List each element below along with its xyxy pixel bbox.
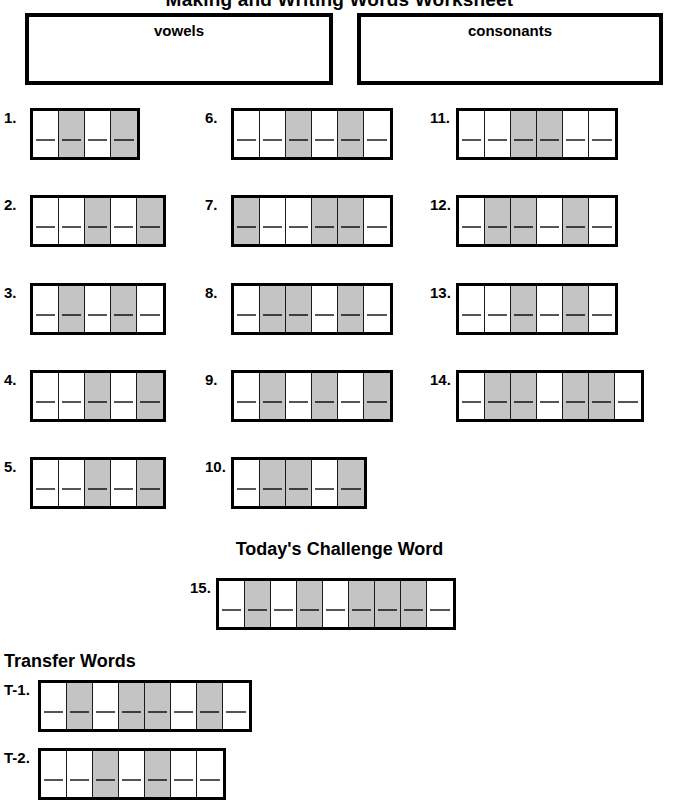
letter-cell-shaded[interactable]: [260, 460, 286, 506]
word-box[interactable]: [456, 195, 618, 247]
letter-cell[interactable]: [85, 286, 111, 332]
word-box[interactable]: [30, 195, 166, 247]
letter-cell-shaded[interactable]: [260, 373, 286, 419]
letter-cell-shaded[interactable]: [589, 373, 615, 419]
letter-cell-shaded[interactable]: [401, 581, 427, 627]
word-box[interactable]: [231, 195, 393, 247]
letter-cell-shaded[interactable]: [286, 286, 312, 332]
letter-cell[interactable]: [563, 111, 589, 157]
letter-cell[interactable]: [33, 111, 59, 157]
letter-cell[interactable]: [589, 111, 615, 157]
letter-cell[interactable]: [197, 751, 223, 797]
letter-cell-shaded[interactable]: [338, 460, 364, 506]
letter-cell[interactable]: [85, 111, 111, 157]
sort-box-consonants[interactable]: consonants: [357, 13, 663, 85]
letter-cell[interactable]: [111, 373, 137, 419]
letter-cell[interactable]: [485, 286, 511, 332]
letter-cell[interactable]: [137, 286, 163, 332]
letter-cell[interactable]: [41, 751, 67, 797]
letter-cell[interactable]: [459, 373, 485, 419]
word-box[interactable]: [30, 370, 166, 422]
letter-cell[interactable]: [59, 460, 85, 506]
letter-cell-shaded[interactable]: [511, 111, 537, 157]
sort-box-vowels[interactable]: vowels: [25, 13, 333, 85]
word-box[interactable]: [231, 370, 393, 422]
letter-cell[interactable]: [537, 286, 563, 332]
letter-cell-shaded[interactable]: [59, 286, 85, 332]
letter-cell[interactable]: [364, 111, 390, 157]
word-box[interactable]: [30, 108, 140, 160]
letter-cell-shaded[interactable]: [137, 373, 163, 419]
letter-cell[interactable]: [260, 198, 286, 244]
letter-cell-shaded[interactable]: [286, 460, 312, 506]
letter-cell[interactable]: [33, 373, 59, 419]
letter-cell-shaded[interactable]: [364, 373, 390, 419]
letter-cell-shaded[interactable]: [137, 198, 163, 244]
letter-cell-shaded[interactable]: [563, 373, 589, 419]
letter-cell-shaded[interactable]: [312, 198, 338, 244]
letter-cell-shaded[interactable]: [260, 286, 286, 332]
letter-cell[interactable]: [427, 581, 453, 627]
letter-cell-shaded[interactable]: [286, 111, 312, 157]
letter-cell[interactable]: [93, 683, 119, 729]
letter-cell-shaded[interactable]: [85, 198, 111, 244]
letter-cell[interactable]: [312, 286, 338, 332]
letter-cell[interactable]: [459, 198, 485, 244]
letter-cell[interactable]: [171, 683, 197, 729]
letter-cell[interactable]: [338, 373, 364, 419]
letter-cell[interactable]: [485, 111, 511, 157]
letter-cell-shaded[interactable]: [349, 581, 375, 627]
letter-cell[interactable]: [537, 373, 563, 419]
letter-cell[interactable]: [364, 198, 390, 244]
letter-cell[interactable]: [219, 581, 245, 627]
letter-cell-shaded[interactable]: [563, 198, 589, 244]
letter-cell[interactable]: [59, 373, 85, 419]
letter-cell-shaded[interactable]: [375, 581, 401, 627]
letter-cell[interactable]: [234, 460, 260, 506]
letter-cell-shaded[interactable]: [111, 286, 137, 332]
letter-cell[interactable]: [223, 683, 249, 729]
letter-cell-shaded[interactable]: [563, 286, 589, 332]
letter-cell[interactable]: [33, 198, 59, 244]
letter-cell[interactable]: [234, 111, 260, 157]
letter-cell[interactable]: [589, 286, 615, 332]
letter-cell-shaded[interactable]: [312, 373, 338, 419]
word-box[interactable]: [231, 457, 367, 509]
letter-cell[interactable]: [171, 751, 197, 797]
letter-cell[interactable]: [33, 460, 59, 506]
letter-cell-shaded[interactable]: [59, 111, 85, 157]
letter-cell[interactable]: [615, 373, 641, 419]
word-box[interactable]: [38, 748, 226, 800]
letter-cell-shaded[interactable]: [511, 198, 537, 244]
letter-cell-shaded[interactable]: [197, 683, 223, 729]
letter-cell[interactable]: [41, 683, 67, 729]
letter-cell[interactable]: [459, 286, 485, 332]
letter-cell[interactable]: [119, 751, 145, 797]
letter-cell[interactable]: [459, 111, 485, 157]
letter-cell-shaded[interactable]: [85, 460, 111, 506]
letter-cell-shaded[interactable]: [537, 111, 563, 157]
letter-cell-shaded[interactable]: [338, 111, 364, 157]
word-box[interactable]: [456, 108, 618, 160]
letter-cell[interactable]: [323, 581, 349, 627]
letter-cell[interactable]: [312, 111, 338, 157]
letter-cell-shaded[interactable]: [485, 198, 511, 244]
word-box[interactable]: [456, 370, 644, 422]
letter-cell-shaded[interactable]: [511, 373, 537, 419]
letter-cell-shaded[interactable]: [67, 683, 93, 729]
letter-cell-shaded[interactable]: [111, 111, 137, 157]
letter-cell[interactable]: [286, 198, 312, 244]
letter-cell[interactable]: [271, 581, 297, 627]
letter-cell[interactable]: [364, 286, 390, 332]
letter-cell[interactable]: [537, 198, 563, 244]
letter-cell[interactable]: [234, 286, 260, 332]
letter-cell-shaded[interactable]: [137, 460, 163, 506]
letter-cell-shaded[interactable]: [93, 751, 119, 797]
letter-cell[interactable]: [286, 373, 312, 419]
letter-cell-shaded[interactable]: [119, 683, 145, 729]
letter-cell-shaded[interactable]: [338, 286, 364, 332]
letter-cell-shaded[interactable]: [511, 286, 537, 332]
word-box[interactable]: [30, 283, 166, 335]
letter-cell[interactable]: [589, 198, 615, 244]
letter-cell-shaded[interactable]: [245, 581, 271, 627]
